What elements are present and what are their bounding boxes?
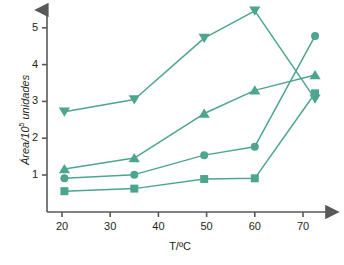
data-point-circle bbox=[60, 174, 68, 182]
data-point-triangle-down bbox=[59, 107, 70, 116]
data-point-triangle-up bbox=[129, 153, 140, 162]
data-point-square bbox=[200, 175, 208, 183]
data-point-triangle-up bbox=[199, 109, 210, 118]
chart-axes bbox=[47, 10, 338, 212]
series-line-circle bbox=[64, 36, 315, 178]
data-point-triangle-down bbox=[249, 7, 260, 16]
x-tick-label: 50 bbox=[198, 220, 216, 232]
y-tick-label: 4 bbox=[23, 58, 38, 70]
data-point-circle bbox=[251, 143, 259, 151]
data-point-circle bbox=[311, 32, 319, 40]
chart-x-axis-label: T/ºC bbox=[150, 240, 210, 252]
data-point-circle bbox=[200, 151, 208, 159]
y-axis-label-main: Área/10 bbox=[19, 126, 31, 165]
x-tick-label: 30 bbox=[101, 220, 119, 232]
series-line-triangle-up bbox=[64, 75, 315, 169]
x-tick-label: 40 bbox=[149, 220, 167, 232]
chart-tick-marks bbox=[42, 28, 303, 217]
x-tick-label: 70 bbox=[294, 220, 312, 232]
chart-plot-area bbox=[0, 0, 344, 265]
data-point-square bbox=[130, 185, 138, 193]
y-tick-label: 5 bbox=[23, 21, 38, 33]
x-tick-label: 60 bbox=[246, 220, 264, 232]
chart-figure: 203040506070 12345 Área/105 unidades T/º… bbox=[0, 0, 344, 265]
chart-y-axis-label: Área/105 unidades bbox=[18, 75, 31, 165]
chart-series-group bbox=[59, 7, 321, 196]
series-line-triangle-down bbox=[64, 11, 315, 112]
data-point-square bbox=[251, 174, 259, 182]
y-axis-label-exponent: 5 bbox=[18, 123, 25, 127]
data-point-circle bbox=[130, 171, 138, 179]
y-axis-label-tail: unidades bbox=[19, 75, 31, 123]
chart-series-triangle-up bbox=[59, 70, 321, 173]
data-point-triangle-up bbox=[309, 70, 320, 79]
chart-series-triangle-down bbox=[59, 7, 321, 117]
data-point-square bbox=[60, 187, 68, 195]
data-point-square bbox=[311, 89, 319, 97]
chart-series-circle bbox=[60, 32, 319, 182]
y-tick-label: 1 bbox=[23, 168, 38, 180]
x-tick-label: 20 bbox=[53, 220, 71, 232]
